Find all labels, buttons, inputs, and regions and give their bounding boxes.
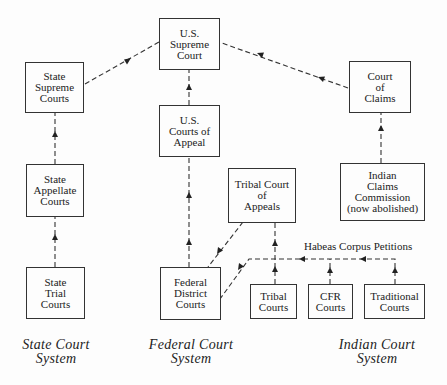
federal-court-system-caption: Federal Court System bbox=[145, 338, 237, 366]
indian-claims-commission-box: Indian Claims Commission (now abolished) bbox=[340, 163, 425, 221]
indian-court-system-caption: Indian Court System bbox=[333, 338, 421, 366]
state-supreme-courts-label: State Supreme Courts bbox=[35, 71, 74, 104]
cfr-courts-label: CFR Courts bbox=[316, 291, 345, 313]
tribal-court-of-appeals-box: Tribal Court of Appeals bbox=[228, 168, 296, 223]
us-courts-of-appeal-box: U.S. Courts of Appeal bbox=[159, 105, 220, 157]
state-appellate-courts-label: State Appellate Courts bbox=[34, 174, 77, 207]
us-supreme-court-box: U.S. Supreme Court bbox=[159, 18, 220, 70]
court-of-claims-box: Court of Claims bbox=[349, 61, 411, 113]
traditional-courts-label: Traditional Courts bbox=[370, 291, 419, 313]
us-supreme-court-label: U.S. Supreme Court bbox=[170, 28, 209, 61]
tribal-court-of-appeals-label: Tribal Court of Appeals bbox=[235, 179, 289, 212]
federal-district-courts-label: Federal District Courts bbox=[174, 277, 207, 310]
us-courts-of-appeal-label: U.S. Courts of Appeal bbox=[169, 115, 210, 148]
tribal-courts-label: Tribal Courts bbox=[259, 291, 288, 313]
habeas-corpus-label: Habeas Corpus Petitions bbox=[304, 240, 412, 252]
court-of-claims-label: Court of Claims bbox=[364, 71, 395, 104]
state-court-system-caption: State Court System bbox=[14, 338, 98, 366]
court-system-diagram: U.S. Supreme Court State Supreme Courts … bbox=[0, 0, 447, 385]
tribal-courts-box: Tribal Courts bbox=[250, 284, 297, 319]
cfr-courts-box: CFR Courts bbox=[308, 284, 353, 319]
federal-district-courts-box: Federal District Courts bbox=[160, 267, 221, 320]
traditional-courts-box: Traditional Courts bbox=[364, 284, 425, 319]
state-trial-courts-label: State Trial Courts bbox=[41, 277, 70, 310]
state-appellate-courts-box: State Appellate Courts bbox=[26, 164, 84, 217]
indian-claims-commission-label: Indian Claims Commission (now abolished) bbox=[347, 170, 418, 214]
state-trial-courts-box: State Trial Courts bbox=[26, 267, 85, 319]
state-supreme-courts-box: State Supreme Courts bbox=[25, 62, 84, 113]
